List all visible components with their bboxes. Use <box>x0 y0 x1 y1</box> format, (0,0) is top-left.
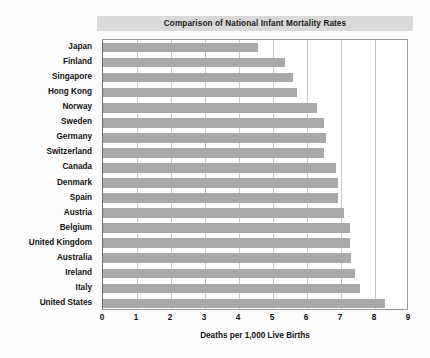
y-axis-label-germany: Germany <box>0 129 97 144</box>
x-tick-0: 0 <box>92 313 112 322</box>
bar <box>103 193 338 203</box>
bar-row <box>103 191 409 206</box>
chart-title-band: Comparison of National Infant Mortality … <box>97 16 413 31</box>
bar <box>103 88 297 98</box>
bar <box>103 284 360 294</box>
bar-row <box>103 115 409 130</box>
gridline-9 <box>409 40 410 309</box>
bar <box>103 133 326 143</box>
bar-row <box>103 176 409 191</box>
bar <box>103 178 338 188</box>
x-tick-9: 9 <box>398 313 418 322</box>
bar <box>103 58 285 68</box>
bar-row <box>103 251 409 266</box>
bar <box>103 148 324 158</box>
bar-row <box>103 296 409 311</box>
bar <box>103 238 350 248</box>
bar-row <box>103 85 409 100</box>
bar <box>103 118 324 128</box>
plot-area <box>102 39 408 310</box>
bar-row <box>103 70 409 85</box>
bar-row <box>103 100 409 115</box>
bar <box>103 269 355 279</box>
bar <box>103 223 350 233</box>
y-axis-label-sweden: Sweden <box>0 114 97 129</box>
y-axis-label-australia: Australia <box>0 250 97 265</box>
x-tick-6: 6 <box>296 313 316 322</box>
page-title: Comparison of National Infant Mortality … <box>97 16 413 31</box>
bar-row <box>103 281 409 296</box>
bar <box>103 299 385 309</box>
bar <box>103 253 351 263</box>
x-tick-1: 1 <box>126 313 146 322</box>
x-axis-tick-labels: 0123456789 <box>102 313 408 325</box>
bars-layer <box>103 40 407 309</box>
bar <box>103 103 317 113</box>
y-axis-label-finland: Finland <box>0 54 97 69</box>
bar-row <box>103 266 409 281</box>
x-tick-2: 2 <box>160 313 180 322</box>
y-axis-label-belgium: Belgium <box>0 220 97 235</box>
bar <box>103 73 293 83</box>
x-tick-4: 4 <box>228 313 248 322</box>
bar-row <box>103 145 409 160</box>
y-axis-label-spain: Spain <box>0 190 97 205</box>
y-axis-label-ireland: Ireland <box>0 265 97 280</box>
y-axis-label-japan: Japan <box>0 39 97 54</box>
x-axis-title: Deaths per 1,000 Live Births <box>102 331 408 340</box>
y-axis-label-singapore: Singapore <box>0 69 97 84</box>
y-axis-label-austria: Austria <box>0 205 97 220</box>
bar <box>103 163 336 173</box>
bar <box>103 208 344 218</box>
x-tick-7: 7 <box>330 313 350 322</box>
bar-row <box>103 130 409 145</box>
y-axis-label-united-kingdom: United Kingdom <box>0 235 97 250</box>
bar-row <box>103 236 409 251</box>
x-tick-5: 5 <box>262 313 282 322</box>
bar-row <box>103 40 409 55</box>
y-axis-label-united-states: United States <box>0 295 97 310</box>
bar-row <box>103 206 409 221</box>
bar <box>103 43 258 53</box>
x-tick-3: 3 <box>194 313 214 322</box>
bar-row <box>103 160 409 175</box>
bar-row <box>103 55 409 70</box>
y-axis-label-italy: Italy <box>0 280 97 295</box>
y-axis-category-labels: JapanFinlandSingaporeHong KongNorwaySwed… <box>0 39 97 310</box>
x-tick-8: 8 <box>364 313 384 322</box>
y-axis-label-hong-kong: Hong Kong <box>0 84 97 99</box>
y-axis-label-canada: Canada <box>0 159 97 174</box>
y-axis-label-denmark: Denmark <box>0 175 97 190</box>
y-axis-label-switzerland: Switzerland <box>0 144 97 159</box>
infant-mortality-bar-chart: Comparison of National Infant Mortality … <box>0 0 430 358</box>
y-axis-label-norway: Norway <box>0 99 97 114</box>
bar-row <box>103 221 409 236</box>
